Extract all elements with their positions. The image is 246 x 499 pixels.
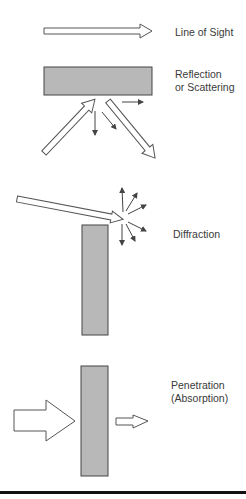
diffraction-rays (122, 188, 146, 245)
diffraction-obstacle (82, 225, 108, 335)
reflection-reflected-arrow (103, 97, 161, 163)
bottom-rule (0, 491, 246, 494)
label-penetration: Penetration (Absorption) (171, 379, 228, 405)
diffraction-incident-arrow (16, 193, 124, 225)
reflection-obstacle (44, 67, 152, 95)
label-reflection: Reflection or Scattering (175, 68, 235, 94)
penetration-incident-arrow (14, 400, 75, 441)
reflection-incident-arrow (39, 95, 100, 158)
penetration-obstacle (81, 366, 108, 476)
label-diffraction: Diffraction (173, 228, 220, 241)
label-line-of-sight: Line of Sight (175, 26, 233, 39)
line-of-sight-arrow (44, 24, 152, 38)
penetration-transmitted-arrow (116, 415, 148, 428)
